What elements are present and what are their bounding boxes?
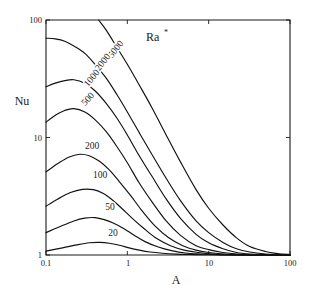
chart-page: 5000500020002000100010005005002002001001… [0, 0, 315, 301]
curve-label-text: 50 [105, 202, 115, 212]
y-tick-label-10: 10 [34, 133, 43, 143]
curve-label-text: 200 [85, 141, 100, 151]
curve-label-text: 20 [108, 228, 118, 238]
y-tick-label-100: 100 [29, 15, 42, 25]
x-tick-label-1: 1 [126, 258, 130, 268]
y-axis-title: Nu [15, 94, 30, 108]
curve-label-20: 2020 [108, 228, 118, 238]
x-tick-label-100: 100 [284, 258, 297, 268]
curve-label-100: 100100 [93, 170, 108, 180]
curve-label-50: 5050 [105, 202, 115, 212]
chart-background [0, 0, 315, 301]
curve-label-200: 200200 [85, 141, 100, 151]
x-tick-label-0.1: 0.1 [41, 258, 52, 268]
legend-title-base: Ra [146, 30, 160, 44]
curve-label-text: 100 [93, 170, 108, 180]
nusselt-rayleigh-chart: 5000500020002000100010005005002002001001… [0, 0, 315, 301]
x-tick-label-10: 10 [205, 258, 214, 268]
legend-title-superscript: * [164, 28, 168, 37]
x-axis-title: A [172, 273, 181, 287]
